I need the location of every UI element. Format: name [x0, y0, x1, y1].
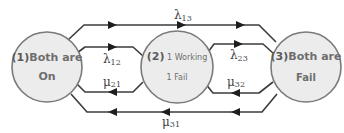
state-3-line1: (3)Both are	[271, 50, 342, 63]
state-transition-diagram: (1)Both are On (2) 1 Working 1 Fail (3)B…	[0, 0, 344, 133]
state-3: (3)Both are Fail	[271, 32, 342, 102]
rate-label-mu21: μ21	[103, 75, 121, 89]
arrow-left-icon	[108, 108, 117, 116]
rate-label-lambda23: λ23	[230, 48, 248, 63]
rate-label-lambda13: λ13	[174, 8, 192, 23]
arrow-right-icon	[234, 40, 243, 48]
arrow-left-icon	[108, 88, 117, 96]
rate-label-mu32: μ32	[227, 75, 245, 89]
state-2: (2) 1 Working 1 Fail	[141, 31, 213, 103]
state-3-circle	[271, 32, 341, 102]
state-1-line2: On	[38, 70, 55, 83]
arrow-right-icon	[236, 21, 245, 29]
state-1-circle	[12, 32, 82, 102]
arrow-right-icon	[108, 43, 117, 51]
state-2-line2: 1 Fail	[167, 73, 188, 82]
rate-label-mu31: μ31	[162, 115, 180, 129]
state-2-circle	[141, 31, 213, 103]
rate-label-lambda12: λ12	[103, 52, 121, 67]
state-1: (1)Both are On	[12, 32, 83, 102]
state-3-line2: Fail	[296, 72, 316, 83]
arrow-left-icon	[231, 108, 240, 116]
state-1-line1: (1)Both are	[12, 51, 83, 64]
arrow-right-icon	[108, 21, 117, 29]
arrow-left-icon	[231, 89, 240, 97]
